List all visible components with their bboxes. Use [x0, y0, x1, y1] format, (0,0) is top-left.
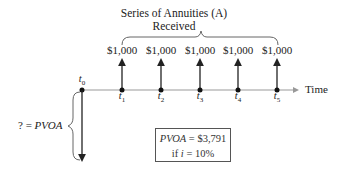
t0-label: t0 [72, 73, 92, 87]
period-label: t4 [228, 90, 248, 104]
diagram-title: Series of Annuities (A) [0, 7, 348, 20]
result-line-1: PVOA = $3,791 [156, 131, 230, 146]
period-label: t2 [151, 90, 171, 104]
payment-amount: $1,000 [100, 44, 144, 56]
payment-amount: $1,000 [255, 44, 299, 56]
result-box: PVOA = $3,791 if i = 10% [155, 128, 231, 162]
time-axis-label: Time [305, 83, 328, 95]
pv-label: ? = PVOA [18, 119, 62, 131]
payment-amount: $1,000 [216, 44, 260, 56]
payment-amount: $1,000 [139, 44, 183, 56]
left-brace [68, 92, 80, 160]
period-label: t5 [267, 90, 287, 104]
top-brace [122, 31, 278, 45]
period-label: t1 [112, 90, 132, 104]
period-label: t3 [190, 90, 210, 104]
diagram-subtitle: Received [0, 20, 348, 33]
payment-arrows [122, 62, 277, 90]
result-line-2: if i = 10% [156, 146, 230, 161]
